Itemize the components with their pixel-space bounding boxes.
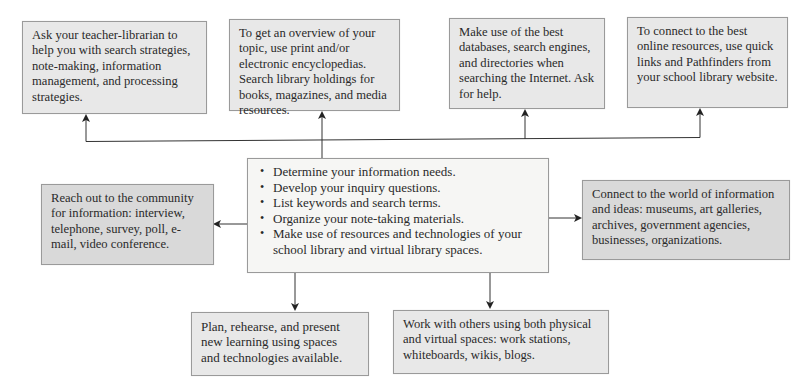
top-box-teacher-librarian: Ask your teacher-librarian to help you w… — [22, 21, 207, 114]
top-box-text: To get an overview of your topic, use pr… — [239, 26, 390, 118]
bottom-box-text: Work with others using both physical and… — [403, 317, 599, 363]
list-item: Determine your information needs. — [260, 164, 538, 180]
top-bus-line — [86, 138, 700, 142]
list-item: List keywords and search terms. — [260, 195, 538, 211]
top-box-overview: To get an overview of your topic, use pr… — [229, 19, 400, 111]
bottom-box-plan-present: Plan, rehearse, and present new learning… — [191, 312, 369, 376]
list-item: Organize your note-taking materials. — [260, 211, 538, 227]
list-item: Develop your inquiry questions. — [260, 180, 538, 196]
left-box-community: Reach out to the community for informati… — [41, 184, 214, 265]
top-box-text: Ask your teacher-librarian to help you w… — [32, 28, 197, 105]
top-box-databases: Make use of the best databases, search e… — [449, 18, 605, 109]
top-box-online-resources: To connect to the best online resources,… — [627, 17, 788, 108]
bottom-box-collaborate: Work with others using both physical and… — [393, 310, 609, 374]
list-item: Make use of resources and technologies o… — [260, 226, 538, 257]
bottom-box-text: Plan, rehearse, and present new learning… — [201, 319, 359, 365]
inquiry-steps-list: Determine your information needs. Develo… — [260, 164, 538, 258]
left-box-text: Reach out to the community for informati… — [51, 191, 204, 253]
right-box-text: Connect to the world of information and … — [592, 187, 780, 249]
top-box-text: Make use of the best databases, search e… — [459, 25, 595, 102]
top-box-text: To connect to the best online resources,… — [637, 24, 778, 86]
center-box-inquiry-steps: Determine your information needs. Develo… — [247, 158, 549, 273]
right-box-world-of-information: Connect to the world of information and … — [582, 180, 790, 260]
